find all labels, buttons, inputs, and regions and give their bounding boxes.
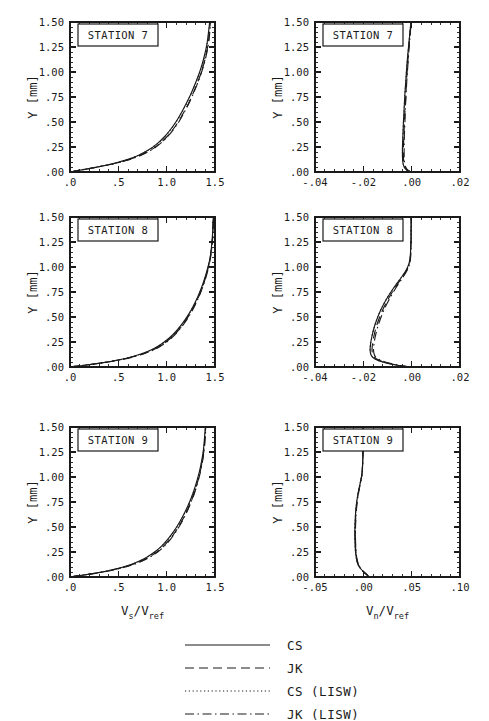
x-axis-title-slash: /V — [134, 603, 150, 618]
x-tick-label: -.04 — [302, 371, 327, 383]
y-tick-label: .00 — [45, 361, 64, 373]
x-tick-label: -.02 — [351, 176, 376, 188]
figure-canvas: .0.51.01.51.501.251.00.75.50.25.00STATIO… — [0, 0, 489, 721]
y-axis-title: Y [mm] — [26, 480, 40, 523]
y-axis-title: Y [mm] — [271, 75, 285, 118]
x-tick-label: .02 — [451, 176, 470, 188]
y-tick-label: .25 — [45, 336, 64, 348]
x-axis-title-sub2: ref — [149, 611, 164, 621]
panel-station7-vs: .0.51.01.51.501.251.00.75.50.25.00STATIO… — [26, 16, 224, 188]
y-tick-label: .25 — [290, 546, 309, 558]
y-axis-title: Y [mm] — [271, 480, 285, 523]
x-tick-label: 1.0 — [157, 176, 176, 188]
y-tick-label: .25 — [290, 336, 309, 348]
y-tick-label: .25 — [45, 546, 64, 558]
y-tick-label: .00 — [290, 361, 309, 373]
legend-label: JK (LISW) — [287, 707, 359, 721]
y-tick-label: .75 — [290, 286, 309, 298]
station-label: STATION 8 — [88, 224, 149, 236]
y-tick-label: .75 — [45, 91, 64, 103]
x-tick-label: .0 — [64, 176, 77, 188]
y-tick-label: 1.25 — [284, 236, 309, 248]
x-tick-label: -.05 — [302, 581, 327, 593]
station-label: STATION 9 — [333, 434, 394, 446]
y-tick-label: .00 — [45, 571, 64, 583]
y-tick-label: .00 — [290, 571, 309, 583]
y-tick-label: 1.50 — [284, 421, 309, 433]
y-tick-label: .50 — [290, 311, 309, 323]
station-label: STATION 8 — [333, 224, 394, 236]
station-label: STATION 7 — [88, 29, 149, 41]
x-axis-title: Vn/Vref — [366, 603, 409, 621]
x-tick-label: 1.0 — [157, 581, 176, 593]
y-axis-title: Y [mm] — [26, 75, 40, 118]
curves-group — [402, 22, 411, 172]
y-tick-label: 1.25 — [284, 446, 309, 458]
x-tick-label: 1.0 — [157, 371, 176, 383]
y-tick-label: .75 — [290, 496, 309, 508]
panel-station9-vs: .0.51.01.51.501.251.00.75.50.25.00STATIO… — [26, 421, 224, 621]
x-tick-label: .5 — [112, 176, 125, 188]
x-tick-label: .00 — [402, 371, 421, 383]
x-tick-label: -.04 — [302, 176, 327, 188]
y-tick-label: 1.25 — [284, 41, 309, 53]
y-tick-label: 1.25 — [39, 236, 64, 248]
y-tick-label: 1.50 — [39, 16, 64, 28]
x-tick-label: -.02 — [351, 371, 376, 383]
x-axis-title-sub2: ref — [394, 611, 409, 621]
y-tick-label: .00 — [45, 166, 64, 178]
y-tick-label: 1.00 — [284, 471, 309, 483]
y-tick-label: 1.00 — [39, 261, 64, 273]
x-tick-label: .5 — [112, 581, 125, 593]
x-tick-label: .0 — [64, 371, 77, 383]
y-tick-label: 1.00 — [39, 471, 64, 483]
y-tick-label: .75 — [45, 496, 64, 508]
y-tick-label: 1.50 — [39, 211, 64, 223]
x-tick-label: .10 — [451, 581, 470, 593]
y-tick-label: 1.25 — [39, 446, 64, 458]
y-tick-label: .25 — [290, 141, 309, 153]
y-tick-label: .50 — [45, 311, 64, 323]
y-tick-label: 1.25 — [39, 41, 64, 53]
y-tick-label: 1.50 — [284, 16, 309, 28]
legend-label: JK — [287, 661, 303, 676]
y-tick-label: 1.00 — [39, 66, 64, 78]
x-tick-label: .02 — [451, 371, 470, 383]
legend-label: CS — [287, 638, 303, 653]
x-tick-label: 1.5 — [206, 371, 225, 383]
station-label: STATION 7 — [333, 29, 394, 41]
y-tick-label: .75 — [290, 91, 309, 103]
y-axis-title: Y [mm] — [26, 270, 40, 313]
y-tick-label: 1.00 — [284, 66, 309, 78]
y-axis-title: Y [mm] — [271, 270, 285, 313]
panel-station8-vn: -.04-.02.00.021.501.251.00.75.50.25.00ST… — [271, 211, 469, 383]
legend: CSJKCS (LISW)JK (LISW) — [185, 638, 359, 721]
x-tick-label: .05 — [402, 581, 421, 593]
x-tick-label: .0 — [64, 581, 77, 593]
y-tick-label: 1.50 — [284, 211, 309, 223]
y-tick-label: 1.50 — [39, 421, 64, 433]
x-axis-title: Vs/Vref — [121, 603, 164, 621]
panel-station9-vn: -.05.00.05.101.501.251.00.75.50.25.00STA… — [271, 421, 469, 621]
y-tick-label: 1.00 — [284, 261, 309, 273]
panel-station8-vs: .0.51.01.51.501.251.00.75.50.25.00STATIO… — [26, 211, 224, 383]
x-tick-label: .5 — [112, 371, 125, 383]
x-axis-title-slash: /V — [379, 603, 395, 618]
x-tick-label: 1.5 — [206, 176, 225, 188]
x-tick-label: 1.5 — [206, 581, 225, 593]
y-tick-label: .75 — [45, 286, 64, 298]
x-tick-label: .00 — [402, 176, 421, 188]
y-tick-label: .00 — [290, 166, 309, 178]
y-tick-label: .25 — [45, 141, 64, 153]
panel-station7-vn: -.04-.02.00.021.501.251.00.75.50.25.00ST… — [271, 16, 469, 188]
y-tick-label: .50 — [45, 116, 64, 128]
y-tick-label: .50 — [290, 521, 309, 533]
x-tick-label: .00 — [354, 581, 373, 593]
velocity-profile-figure: .0.51.01.51.501.251.00.75.50.25.00STATIO… — [0, 0, 489, 721]
y-tick-label: .50 — [290, 116, 309, 128]
legend-label: CS (LISW) — [287, 684, 359, 699]
y-tick-label: .50 — [45, 521, 64, 533]
station-label: STATION 9 — [88, 434, 149, 446]
